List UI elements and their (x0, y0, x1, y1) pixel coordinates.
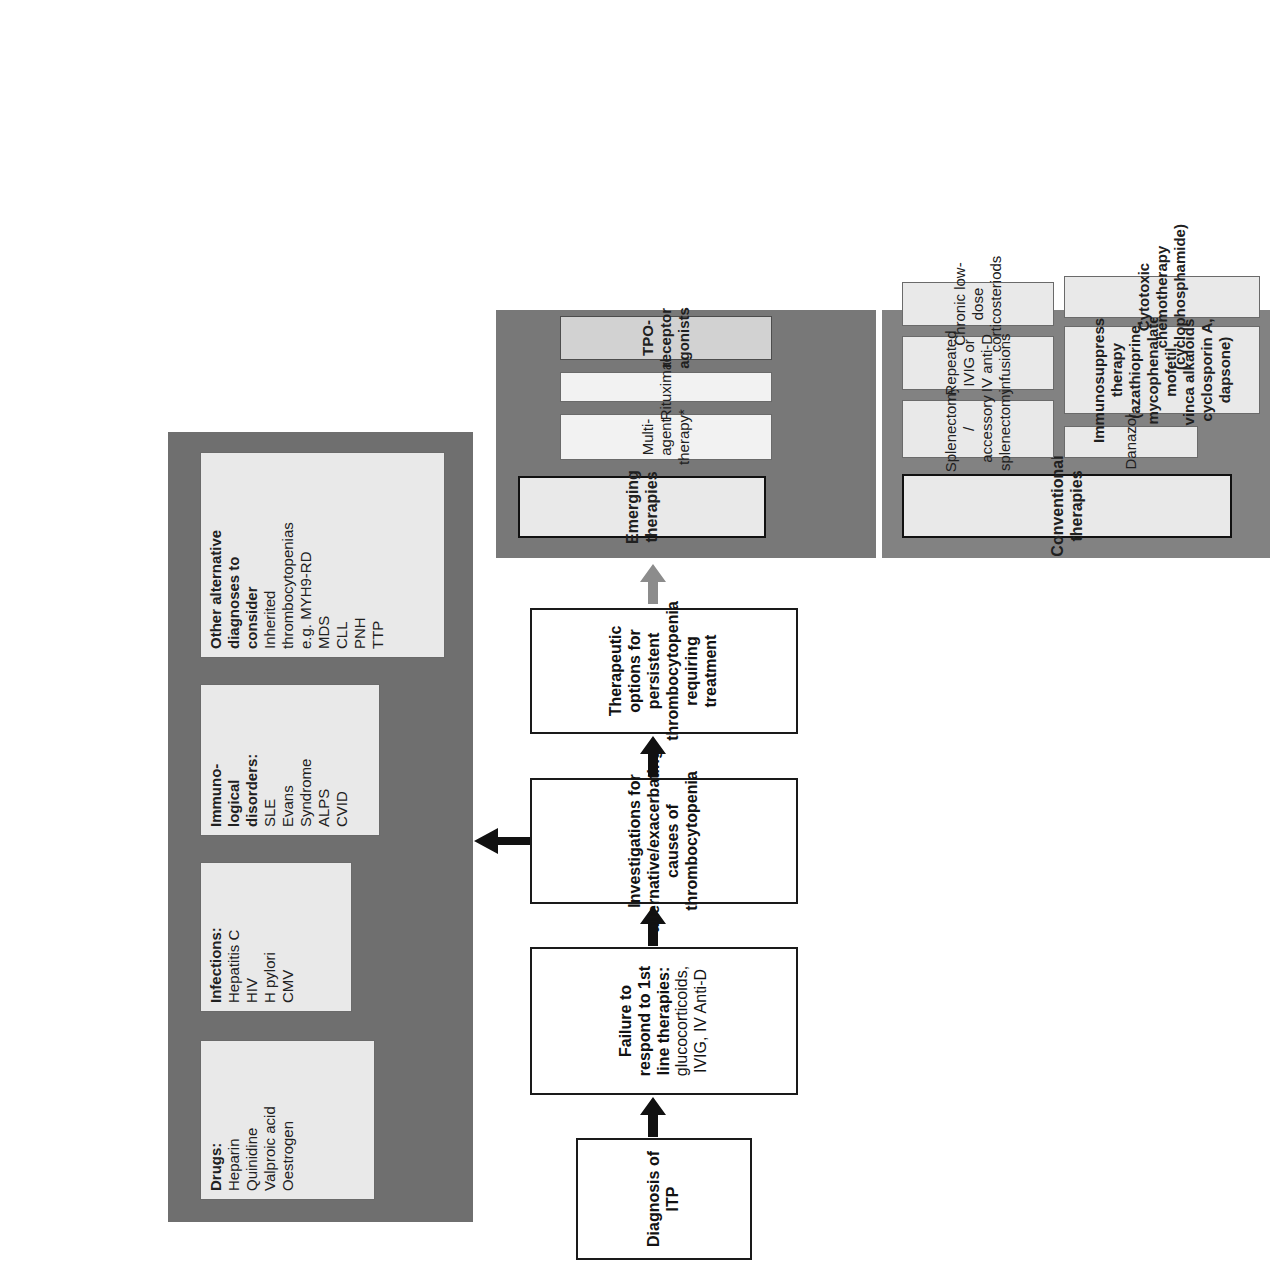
emerging-therapies-title-card: Emerging therapies (518, 476, 766, 538)
card-immunosuppressive-line: Immunosuppressive (1090, 297, 1108, 443)
card-cytotoxic-line: Cytotoxic chemotherapy (1135, 224, 1171, 370)
arrow-investigations-to-causes (474, 828, 530, 854)
card-immunological-item: Syndrome (297, 693, 315, 827)
card-chronic-line: Chronic low-dose (951, 256, 987, 353)
card-cytotoxic-chemotherapy: Cytotoxic chemotherapy (cyclophosphamide… (1064, 276, 1260, 318)
flow-box-investigations: Investigations for alternative/exacerbat… (530, 778, 798, 904)
card-chronic-low-dose-corticosteriods: Chronic low-dose corticosteriods (902, 282, 1054, 326)
card-splenectomy: Splenectomy / accessory splenectomy (902, 400, 1054, 458)
card-other-item: e.g. MYH9-RD (297, 461, 315, 649)
card-immunosuppressive-line: cyclosporin A, dapsone) (1198, 297, 1234, 443)
flow-box-therapeutic: Therapeutic options for persistent throm… (530, 608, 798, 734)
card-immunological-item: SLE (261, 693, 279, 827)
card-other-heading-line: diagnoses to (225, 461, 243, 649)
card-drugs-item: Oestrogen (279, 1049, 297, 1191)
card-infections-item: CMV (279, 871, 297, 1003)
card-drugs-item: Heparin (225, 1049, 243, 1191)
card-cytotoxic-line: (cyclophosphamide) (1171, 224, 1189, 370)
card-infections: Infections: Hepatitis C HIV H pylori CMV (200, 862, 352, 1012)
flow-box-diagnosis-label: Diagnosis of ITP (645, 1146, 683, 1252)
card-infections-item: HIV (243, 871, 261, 1003)
card-other-heading-line: consider (243, 461, 261, 649)
card-other-alternative-diagnoses: Other alternative diagnoses to consider … (200, 452, 445, 658)
flow-box-failure-label-rest: glucocorticoids, IVIG, IV Anti-D (673, 966, 709, 1076)
conventional-therapies-title: Conventional therapies (1048, 455, 1086, 556)
card-tpo-receptor-agonists: TPO-receptor agonists (560, 316, 772, 360)
conventional-therapies-title-card: Conventional therapies (902, 474, 1232, 538)
card-drugs-heading: Drugs: (207, 1049, 225, 1191)
card-other-item: Inherited (261, 461, 279, 649)
card-immunological-heading-line: Immuno- (207, 693, 225, 827)
card-chronic-line: corticosteriods (987, 256, 1005, 353)
card-other-item: PNH (351, 461, 369, 649)
card-tpo-line: TPO-receptor (639, 307, 675, 369)
flow-box-failure: Failure to respond to 1st line therapies… (530, 947, 798, 1095)
card-immunological-item: Evans (279, 693, 297, 827)
flow-box-therapeutic-label: Therapeutic options for persistent throm… (607, 601, 720, 741)
arrow-investigations-to-therapeutic (640, 736, 666, 776)
card-other-item: MDS (315, 461, 333, 649)
card-multi-agent-line: therapy* (675, 409, 693, 465)
card-tpo-line: agonists (675, 307, 693, 369)
card-splenectomy-line: splenectomy (996, 386, 1014, 473)
flow-box-diagnosis: Diagnosis of ITP (576, 1138, 752, 1260)
card-drugs: Drugs: Heparin Quinidine Valproic acid O… (200, 1040, 375, 1200)
card-other-item: TTP (369, 461, 387, 649)
card-immunological-item: CVID (333, 693, 351, 827)
arrow-diagnosis-to-failure (640, 1097, 666, 1137)
card-other-heading-line: Other alternative (207, 461, 225, 649)
flow-box-failure-label-bold: Failure to respond to 1st line therapies… (617, 966, 672, 1076)
card-immunological-item: ALPS (315, 693, 333, 827)
card-splenectomy-line: Splenectomy / (942, 386, 978, 473)
card-splenectomy-line: accessory (978, 386, 996, 473)
card-immunological-heading-line: disorders: (243, 693, 261, 827)
emerging-therapies-title: Emerging therapies (623, 470, 661, 544)
card-immunological-heading-line: logical (225, 693, 243, 827)
card-drugs-item: Valproic acid (261, 1049, 279, 1191)
card-rituximab: Rituximab (560, 372, 772, 402)
card-other-item: CLL (333, 461, 351, 649)
flow-box-investigations-label: Investigations for alternative/exacerbat… (626, 749, 702, 932)
card-drugs-item: Quinidine (243, 1049, 261, 1191)
card-infections-item: Hepatitis C (225, 871, 243, 1003)
card-other-item: thrombocytopenias (279, 461, 297, 649)
card-immunological-disorders: Immuno- logical disorders: SLE Evans Syn… (200, 684, 380, 836)
arrow-therapeutic-to-treatments (640, 564, 666, 604)
card-infections-heading: Infections: (207, 871, 225, 1003)
card-multi-agent-therapy: Multi-agent therapy* (560, 414, 772, 460)
card-infections-item: H pylori (261, 871, 279, 1003)
